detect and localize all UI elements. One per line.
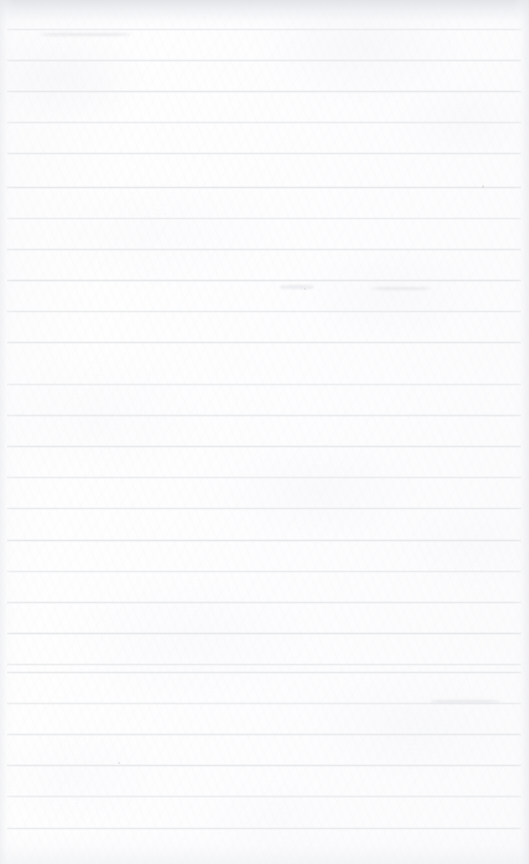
rule-line: [7, 187, 521, 188]
scan-shadow-top: [0, 0, 529, 30]
scan-smudge: [372, 287, 430, 290]
rule-line: [7, 765, 521, 766]
rule-line: [7, 384, 521, 385]
rule-line: [7, 415, 521, 416]
rule-line: [7, 703, 521, 704]
scan-shadow-right: [513, 0, 529, 864]
scan-smudge: [430, 700, 500, 703]
scan-smudge: [280, 285, 314, 289]
rule-line: [7, 91, 521, 92]
rule-line: [7, 218, 521, 219]
scan-speck: [304, 288, 306, 290]
rule-line: [7, 280, 521, 281]
scan-speck: [482, 185, 484, 188]
rule-line: [7, 446, 521, 447]
rule-line: [7, 60, 521, 61]
rule-line: [7, 734, 521, 735]
rule-line: [7, 122, 521, 123]
scan-shadow-bottom: [0, 830, 529, 864]
rule-line: [7, 672, 521, 673]
rule-line: [7, 602, 521, 603]
rule-line: [7, 153, 521, 154]
rule-line: [7, 633, 521, 634]
rule-line: [7, 796, 521, 797]
rule-line: [7, 540, 521, 541]
rule-line: [7, 664, 521, 665]
rule-line: [7, 311, 521, 312]
rule-line: [7, 571, 521, 572]
rule-line: [7, 342, 521, 343]
scan-smudge: [40, 33, 130, 36]
rule-line: [7, 477, 521, 478]
rule-line: [7, 508, 521, 509]
rule-line: [7, 249, 521, 250]
scan-speck: [118, 762, 120, 764]
scan-shadow-left: [0, 0, 14, 864]
rule-line: [7, 828, 521, 829]
ruled-lines-group: [0, 0, 529, 864]
scanned-page: [0, 0, 529, 864]
